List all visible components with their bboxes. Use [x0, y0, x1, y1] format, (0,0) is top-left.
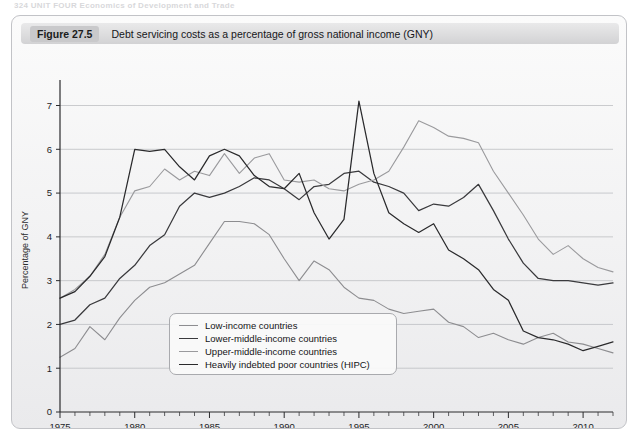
y-tick-label: 7: [47, 100, 52, 111]
y-tick-label: 4: [47, 231, 52, 242]
legend-item: Heavily indebted poor countries (HIPC): [179, 358, 396, 371]
x-tick-label: 1995: [348, 421, 369, 429]
legend-line-swatch: [179, 351, 198, 352]
x-tick-label: 2005: [498, 421, 519, 429]
legend-item: Upper-middle-income countries: [179, 345, 396, 358]
legend-label: Upper-middle-income countries: [205, 346, 337, 357]
series-line-2: [60, 121, 613, 298]
y-tick-label: 0: [47, 406, 52, 417]
y-tick-label: 3: [47, 275, 52, 286]
figure-number-badge: Figure 27.5: [30, 26, 99, 42]
figure-title: Debt servicing costs as a percentage of …: [111, 28, 433, 40]
figure-frame: Figure 27.5 Debt servicing costs as a pe…: [11, 15, 627, 429]
figure-caption-bar: Figure 27.5 Debt servicing costs as a pe…: [21, 23, 619, 44]
legend-label: Lower-middle-income countries: [205, 333, 337, 344]
y-axis-title: Percentage of GNY: [20, 211, 30, 289]
legend-label: Low-income countries: [205, 320, 297, 331]
legend-line-swatch: [179, 325, 198, 326]
y-tick-label: 6: [47, 144, 52, 155]
legend-line-swatch: [179, 338, 198, 339]
running-header: 324 UNIT FOUR Economics of Development a…: [14, 0, 434, 11]
x-tick-label: 1980: [124, 421, 145, 429]
x-tick-label: 1990: [274, 421, 295, 429]
y-tick-label: 5: [47, 187, 52, 198]
legend-line-swatch: [179, 364, 198, 365]
axis-title-group: Percentage of GNY: [20, 211, 30, 289]
legend-label: Heavily indebted poor countries (HIPC): [205, 359, 370, 370]
legend-item: Lower-middle-income countries: [179, 332, 396, 345]
y-tick-label: 2: [47, 319, 52, 330]
x-tick-label: 2000: [423, 421, 444, 429]
y-tick-label: 1: [47, 363, 52, 374]
x-tick-label: 1985: [199, 421, 220, 429]
chart-legend: Low-income countriesLower-middle-income …: [169, 313, 397, 375]
legend-item: Low-income countries: [179, 319, 396, 332]
x-tick-label: 1975: [49, 421, 70, 429]
x-tick-label: 2010: [573, 421, 594, 429]
series-line-1: [60, 171, 613, 324]
